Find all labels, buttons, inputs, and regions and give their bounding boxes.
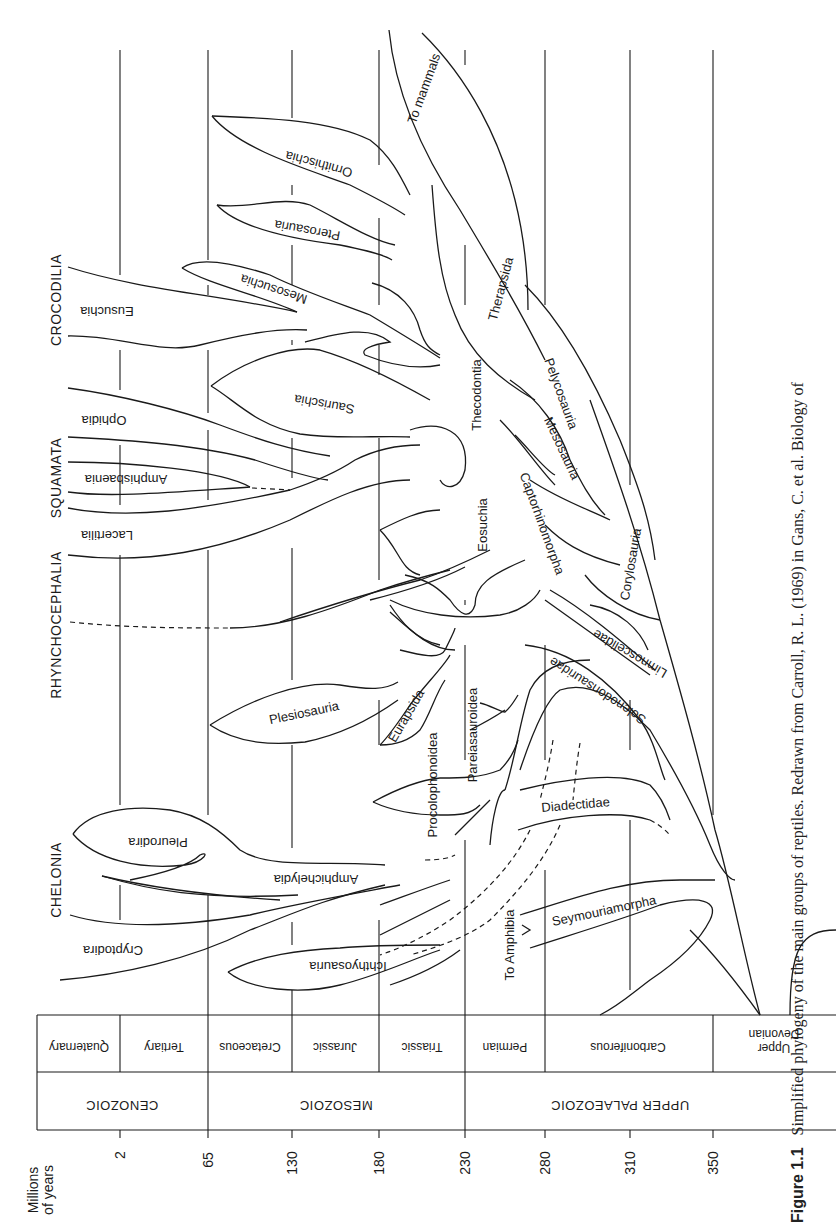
label-to-amphibia: To Amphibia [502,909,517,981]
label-pleurodira: Pleurodira [128,835,188,850]
label-ornithischia: Ornithischia [283,148,354,180]
svg-text:Upper: Upper [758,1041,791,1055]
label-diadectidae: Diadectidae [541,794,611,815]
tick-2: 2 [112,1151,128,1159]
period-quaternary: Quaternary [49,1040,109,1054]
label-eosuchia: Eosuchia [475,497,490,551]
caption-text: Simplified phylogeny of the main groups … [789,382,807,1136]
label-thecodontia: Thecodontia [469,358,484,430]
clade-rhynchocephalia: RHYNCHOCEPHALIA [48,551,64,699]
period-cretaceous: Cretaceous [219,1040,280,1054]
label-limnoscelidae: Limnoscelidae [590,627,669,682]
label-ophidia: Ophidia [81,413,127,428]
tick-350: 350 [705,1151,721,1175]
geologic-time-table: Quaternary Tertiary Cretaceous Jurassic … [25,1015,836,1215]
reptile-phylogeny-figure: Quaternary Tertiary Cretaceous Jurassic … [0,0,836,1223]
label-captorhinomorpha: Captorhinomorpha [517,470,568,577]
taxon-labels: Ornithischia Pterosauria Mesosuchia Eusu… [79,51,669,981]
tick-230: 230 [457,1151,473,1175]
svg-text:Figure 1.1 Simplified ph: Figure 1.1 Simplified phylogeny of the m… [789,382,807,1223]
period-triassic: Triassic [402,1040,443,1054]
label-eusuchia: Eusuchia [79,304,133,319]
period-jurassic: Jurassic [313,1040,357,1054]
tick-280: 280 [537,1151,553,1175]
period-tertiary: Tertiary [144,1040,183,1054]
tick-130: 130 [284,1151,300,1175]
clade-squamata: SQUAMATA [48,438,64,519]
label-procolophonoidea: Procolophonoidea [425,732,440,838]
tick-65: 65 [200,1152,216,1168]
period-permian: Permian [483,1040,528,1054]
label-ichthyosauria: Ichthyosauria [309,959,387,974]
phylogeny-branches [60,30,836,1015]
svg-text:Millions: Millions [25,1167,41,1214]
label-saurischia: Saurischia [292,392,355,417]
label-therapsida: Therapsida [485,255,517,322]
era-mesozoic: MESOZOIC [299,1098,372,1113]
period-carboniferous: Carboniferous [590,1040,665,1054]
label-cryptodira: Cryptodira [82,943,143,958]
figure-caption: Figure 1.1 Simplified phylogeny of the m… [789,382,807,1223]
label-amphichelydia: Amphichelydia [273,872,358,887]
era-upper-palaeozoic: UPPER PALAEOZOIC [551,1098,690,1113]
label-lacertilia: Lacertilia [80,528,133,543]
clade-chelonia: CHELONIA [48,842,64,918]
label-pareiasauroidea: Pareiasauroidea [465,687,480,782]
label-plesiosauria: Plesiosauria [268,698,341,728]
axis-title: Millions of years [25,1165,56,1215]
label-corylosauria: Corylosauria [617,526,645,601]
era-cenozoic: CENOZOIC [86,1098,159,1113]
clade-labels: CROCODILIA SQUAMATA RHYNCHOCEPHALIA CHEL… [48,254,64,918]
label-to-mammals: To mammals [404,51,443,126]
label-eurapsida: Eurapsida [385,686,428,745]
tick-310: 310 [622,1151,638,1175]
svg-text:of years: of years [40,1165,56,1215]
tick-180: 180 [371,1151,387,1175]
clade-crocodilia: CROCODILIA [48,254,64,346]
label-amphisbaenia: Amphisbaenia [84,472,167,487]
caption-label: Figure 1.1 [789,1147,806,1223]
time-gridlines [120,50,713,1015]
